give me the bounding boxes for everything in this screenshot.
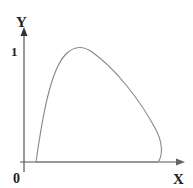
diagram: Y 1 0 X — [0, 0, 193, 188]
y-axis-label: Y — [16, 14, 27, 30]
x-axis-arrow-icon — [176, 159, 185, 166]
x-axis-label: X — [173, 171, 184, 187]
y-tick-label: 1 — [11, 44, 18, 59]
origin-label: 0 — [13, 171, 20, 186]
curve — [36, 47, 161, 162]
